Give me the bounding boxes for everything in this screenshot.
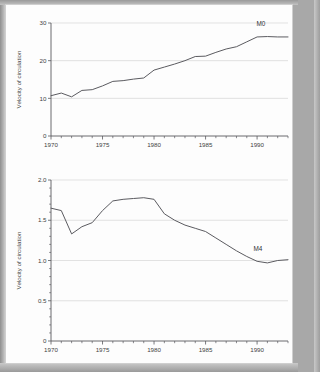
x-tick-label-1980: 1980 [147,141,161,148]
y-tick-label-0.5: 0.5 [38,297,47,304]
scan-border-bottom [0,363,298,372]
y-tick-label-0: 0 [43,132,47,139]
y-axis-title: Velocity of circulation [15,50,22,108]
chart-m0-svg: 010203019701975198019851990Velocity of c… [6,5,292,165]
chart-m4-velocity: 00.51.01.52.019701975198019851990Velocit… [6,165,292,363]
document-page: 010203019701975198019851990Velocity of c… [6,5,292,363]
y-tick-label-10: 10 [40,95,47,102]
x-tick-label-1970: 1970 [44,141,58,148]
x-tick-label-1990: 1990 [250,141,264,148]
x-tick-label-1985: 1985 [199,346,213,353]
series-label-M0: M0 [257,20,266,27]
y-tick-label-1.0: 1.0 [38,257,47,264]
chart-m4-svg: 00.51.01.52.019701975198019851990Velocit… [6,165,292,363]
y-tick-label-30: 30 [40,19,47,26]
x-tick-label-1980: 1980 [147,346,161,353]
x-tick-label-1975: 1975 [96,346,110,353]
y-tick-label-20: 20 [40,57,47,64]
series-line-M4 [51,198,288,263]
x-tick-label-1975: 1975 [96,141,110,148]
y-tick-label-2.0: 2.0 [38,176,47,183]
y-tick-label-1.5: 1.5 [38,216,47,223]
y-tick-label-0: 0 [43,337,47,344]
y-axis-title: Velocity of circulation [15,231,22,289]
series-line-M0 [51,37,288,97]
x-tick-label-1990: 1990 [250,346,264,353]
series-label-M4: M4 [254,245,263,252]
x-tick-label-1985: 1985 [199,141,213,148]
chart-m0-velocity: 010203019701975198019851990Velocity of c… [6,5,292,165]
x-tick-label-1970: 1970 [44,346,58,353]
